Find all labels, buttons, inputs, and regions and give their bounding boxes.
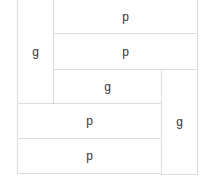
cell-label: p [122,10,129,24]
cell-second-p: p [53,33,198,70]
grid-diagram: g p p g g p p [0,0,208,185]
cell-label: g [176,115,183,129]
cell-label: g [32,45,39,59]
cell-label: g [104,80,111,94]
cell-top-p: p [53,0,198,34]
cell-middle-g: g [53,69,162,104]
cell-label: p [86,149,93,163]
cell-label: p [86,114,93,128]
cell-label: p [122,45,129,59]
cell-bottom-p: p [17,138,162,174]
cell-lower-p: p [17,103,162,139]
cell-right-g: g [161,69,198,175]
cell-left-g: g [17,0,54,104]
